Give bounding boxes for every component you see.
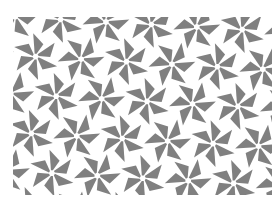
tessellation-canvas: Pinwheel Star Tessellation Repeating lat… <box>0 0 280 206</box>
pattern-artboard: Pinwheel Star Tessellation Repeating lat… <box>0 0 280 206</box>
